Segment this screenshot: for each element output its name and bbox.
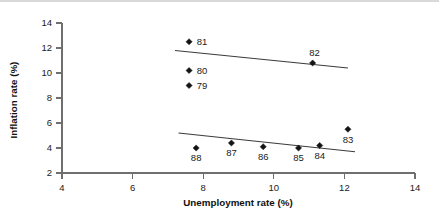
x-axis-title: Unemployment rate (%): [183, 197, 292, 208]
y-axis-title: Inflation rate (%): [8, 62, 19, 139]
data-point-marker-83: [345, 126, 351, 132]
trendline-2: [178, 133, 354, 152]
data-point-label-85: 85: [293, 152, 304, 163]
data-point-marker-81: [186, 39, 192, 45]
data-point-marker-88: [193, 145, 199, 151]
y-tick-label: 12: [41, 42, 52, 53]
data-point-marker-87: [228, 140, 234, 146]
data-point-label-79: 79: [197, 80, 208, 91]
y-axis: 2468101214: [41, 17, 62, 178]
x-axis: 468101214: [59, 173, 420, 193]
data-point-label-80: 80: [197, 65, 208, 76]
y-tick-label: 2: [47, 167, 52, 178]
y-tick-label: 10: [41, 67, 52, 78]
data-point-label-84: 84: [314, 150, 325, 161]
x-tick-label: 10: [269, 182, 280, 193]
x-tick-label: 4: [59, 182, 64, 193]
y-tick-label: 4: [47, 142, 52, 153]
chart-figure: 2468101214 468101214 8180798288878685848…: [0, 0, 439, 222]
y-tick-label: 6: [47, 117, 52, 128]
data-point-label-82: 82: [309, 47, 320, 58]
x-tick-label: 12: [339, 182, 350, 193]
data-point-label-86: 86: [258, 151, 269, 162]
data-point-marker-86: [260, 144, 266, 150]
x-tick-label: 6: [130, 182, 135, 193]
scatter-plot-canvas: 2468101214 468101214 8180798288878685848…: [0, 0, 439, 222]
data-point-marker-79: [186, 82, 192, 88]
x-tick-label: 14: [410, 182, 421, 193]
data-point-marker-80: [186, 67, 192, 73]
data-point-label-81: 81: [197, 36, 208, 47]
data-point-label-87: 87: [226, 147, 237, 158]
y-tick-label: 14: [41, 17, 52, 28]
data-point-label-83: 83: [343, 134, 354, 145]
y-tick-label: 8: [47, 92, 52, 103]
data-points-layer: 81807982888786858483: [186, 36, 353, 163]
data-point-label-88: 88: [191, 152, 202, 163]
x-tick-label: 8: [201, 182, 206, 193]
